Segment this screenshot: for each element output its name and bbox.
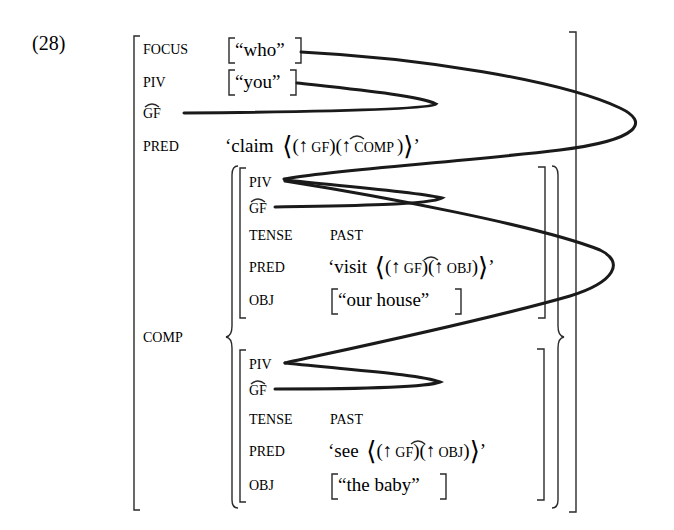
focus-bracket-right — [295, 38, 301, 63]
conj1-attr-pred: PRED — [249, 260, 285, 275]
attr-piv: PIV — [143, 75, 166, 90]
attr-comp: COMP — [143, 330, 183, 345]
comp-set-left-brace — [226, 166, 238, 508]
conj2-pred-see: ‘see ⟨(↑GF)(↑OBJ)⟩’ — [328, 437, 486, 466]
pred-gf-hat-icon — [350, 136, 364, 139]
f-structure-diagram: (28) FOCUS “who” PIV “you” GF PRED ‘clai… — [0, 0, 674, 530]
conj2-obj-value: “the baby” — [338, 474, 420, 495]
conj2-tense-value: PAST — [330, 412, 363, 427]
conj2-attr-tense: TENSE — [249, 412, 293, 427]
conj1-right-bracket — [538, 167, 545, 318]
attr-focus: FOCUS — [143, 42, 188, 57]
conj2-piv-gf-link-curve — [275, 363, 440, 389]
pred-claim: ‘claim ⟨(↑GF)(↑COMP)⟩’ — [225, 132, 420, 161]
conj1-attr-obj: OBJ — [249, 293, 274, 308]
piv-gf-link-curve — [184, 83, 436, 113]
conj2-right-bracket — [537, 349, 544, 500]
conj2-attr-obj: OBJ — [249, 478, 274, 493]
conj2-attr-gf: GF — [249, 383, 267, 398]
focus-link-curve — [284, 52, 636, 179]
conj1-obj-value: “our house” — [338, 289, 429, 310]
conj2-obj-bracket-right — [440, 474, 446, 499]
conj1-tense-value: PAST — [330, 228, 363, 243]
conj1-attr-tense: TENSE — [249, 228, 293, 243]
piv-bracket-right — [290, 70, 296, 95]
focus-value: “who” — [235, 39, 285, 60]
conj2-left-bracket — [240, 350, 246, 502]
attr-gf: GF — [143, 106, 161, 121]
conj1-left-bracket — [240, 168, 246, 318]
attr-pred: PRED — [143, 139, 179, 154]
outer-right-bracket — [569, 32, 576, 512]
conj1-attr-piv: PIV — [249, 175, 272, 190]
conj1-obj-bracket-right — [455, 289, 461, 314]
conj2-attr-piv: PIV — [249, 357, 272, 372]
conj1-pred-visit: ‘visit ⟨(↑GF)(↑OBJ)⟩’ — [328, 253, 495, 282]
comp-set-right-brace — [552, 166, 564, 508]
outer-left-bracket — [134, 36, 140, 510]
conj1-attr-gf: GF — [249, 201, 267, 216]
example-number: (28) — [32, 32, 65, 55]
conj2-attr-pred: PRED — [249, 444, 285, 459]
piv-value: “you” — [235, 71, 280, 92]
